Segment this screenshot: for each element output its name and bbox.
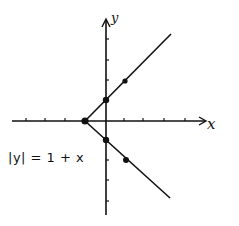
y-axis-label: y xyxy=(110,10,119,25)
upper-branch-line xyxy=(85,34,171,121)
point-0-1 xyxy=(103,97,109,103)
vertex-point xyxy=(81,117,88,124)
point-1-2 xyxy=(122,78,127,83)
equation-label: |y| = 1 + x xyxy=(8,150,84,165)
point-0-neg1 xyxy=(103,137,109,143)
graph-canvas: x y xyxy=(0,0,239,226)
point-1-neg2 xyxy=(123,157,129,163)
x-axis-label: x xyxy=(207,115,216,133)
